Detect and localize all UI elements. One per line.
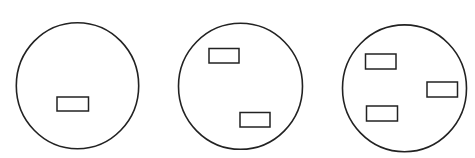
diagram-canvas [0,0,475,158]
